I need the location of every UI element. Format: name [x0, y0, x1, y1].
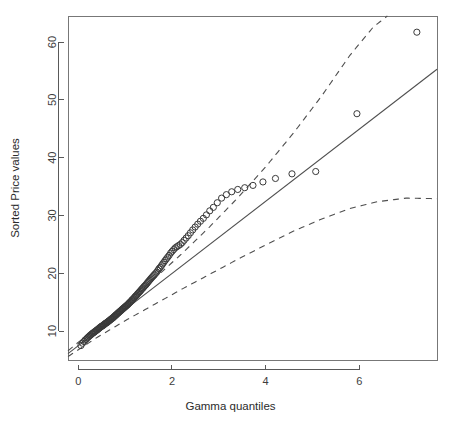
qq-plot-figure: 0246 102030405060 Gamma quantiles Sorted… — [0, 0, 461, 435]
x-tick-label: 4 — [263, 375, 269, 387]
y-tick-label: 20 — [47, 267, 59, 279]
x-tick-label: 6 — [356, 375, 362, 387]
y-tick-label: 50 — [47, 94, 59, 106]
y-tick-label: 40 — [47, 152, 59, 164]
y-tick-label: 30 — [47, 209, 59, 221]
x-tick-label: 0 — [75, 375, 81, 387]
qq-plot-canvas: 0246 102030405060 Gamma quantiles Sorted… — [0, 0, 461, 435]
x-axis-title: Gamma quantiles — [185, 400, 275, 412]
y-tick-label: 10 — [47, 325, 59, 337]
y-axis-title: Sorted Price values — [9, 138, 21, 238]
x-tick-label: 2 — [169, 375, 175, 387]
y-tick-label: 60 — [47, 36, 59, 48]
